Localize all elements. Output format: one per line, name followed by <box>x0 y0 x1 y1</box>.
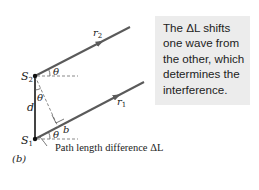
callout-line: The ΔL shifts <box>163 20 250 35</box>
callout-line: the other, which <box>163 51 250 66</box>
label-theta-bottom: θ <box>53 129 59 140</box>
label-r2: r2 <box>93 27 102 40</box>
callout-line: determines the <box>163 66 250 81</box>
label-s2: S2 <box>21 70 33 84</box>
label-d: d <box>27 101 34 114</box>
label-b: b <box>63 124 69 135</box>
label-theta-mid: θ <box>37 92 43 103</box>
panel-label: (b) <box>12 153 26 164</box>
callout-line: one wave from <box>163 35 250 50</box>
path-length-label: Path length difference ΔL <box>55 142 163 153</box>
callout-box: The ΔL shifts one wave from the other, w… <box>155 16 250 105</box>
source-s2-point <box>33 74 37 78</box>
label-r1: r1 <box>117 96 126 109</box>
callout-line: interference. <box>163 82 250 97</box>
label-theta-top: θ <box>53 66 59 77</box>
source-s1-point <box>33 137 37 141</box>
label-s1: S1 <box>21 134 33 148</box>
